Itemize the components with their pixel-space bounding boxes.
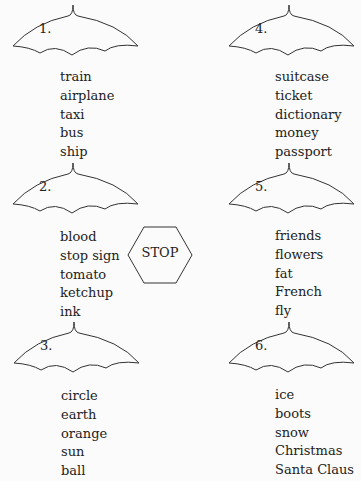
word: tomato [60, 266, 120, 285]
word: circle [61, 387, 107, 406]
umbrella-number: 2. [39, 179, 51, 194]
stop-sign: STOP [127, 226, 193, 284]
word-list-5: friends flowers fat French fly [275, 227, 323, 321]
word: bus [60, 124, 114, 143]
word: ice [275, 386, 354, 405]
word: Santa Claus [275, 461, 354, 480]
umbrella-number: 4. [255, 21, 267, 36]
word: flowers [275, 246, 323, 265]
word: dictionary [275, 106, 342, 125]
word: fat [275, 265, 323, 284]
word: boots [275, 405, 354, 424]
word: earth [61, 406, 107, 425]
umbrella-2: 2. [10, 161, 140, 221]
umbrella-icon [11, 320, 143, 378]
word: friends [275, 227, 323, 246]
umbrella-icon [10, 161, 142, 219]
word: Christmas [275, 442, 354, 461]
umbrella-icon [226, 320, 358, 378]
word: sun [61, 443, 107, 462]
stop-sign-label: STOP [127, 245, 193, 260]
word: orange [61, 425, 107, 444]
word: blood [60, 228, 120, 247]
word-list-4: suitcase ticket dictionary money passpor… [275, 68, 342, 162]
umbrella-icon [226, 3, 358, 61]
word: money [275, 124, 342, 143]
word-list-2: blood stop sign tomato ketchup ink [60, 228, 120, 322]
umbrella-number: 3. [40, 338, 52, 353]
umbrella-number: 6. [255, 338, 267, 353]
word: ship [60, 143, 114, 162]
word: snow [275, 424, 354, 443]
word: ball [61, 462, 107, 481]
umbrella-5: 5. [226, 161, 356, 221]
word: ketchup [60, 284, 120, 303]
word: taxi [60, 106, 114, 125]
umbrella-number: 5. [255, 179, 267, 194]
word-list-3: circle earth orange sun ball [61, 387, 107, 481]
umbrella-1: 1. [10, 3, 140, 63]
word: stop sign [60, 247, 120, 266]
word: airplane [60, 87, 114, 106]
umbrella-3: 3. [11, 320, 141, 380]
umbrella-icon [226, 161, 358, 219]
word: suitcase [275, 68, 342, 87]
umbrella-6: 6. [226, 320, 356, 380]
umbrella-4: 4. [226, 3, 356, 63]
umbrella-icon [10, 3, 142, 61]
word-list-6: ice boots snow Christmas Santa Claus [275, 386, 354, 480]
umbrella-number: 1. [39, 21, 51, 36]
word: ticket [275, 87, 342, 106]
word: fly [275, 302, 323, 321]
word: train [60, 68, 114, 87]
word-list-1: train airplane taxi bus ship [60, 68, 114, 162]
word: French [275, 283, 323, 302]
word: passport [275, 143, 342, 162]
